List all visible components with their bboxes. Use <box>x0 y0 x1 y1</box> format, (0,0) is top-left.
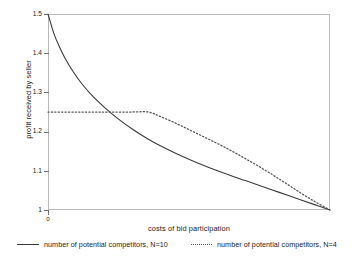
chart-legend: number of potential competitors, N=10 nu… <box>0 238 360 252</box>
x-axis-tick-label: 0 <box>38 216 58 222</box>
legend-swatch-dotted-icon <box>190 240 212 248</box>
y-axis-tick-label: 1.4 <box>16 50 42 57</box>
y-axis-tick <box>44 132 49 133</box>
curves-layer <box>48 14 330 210</box>
y-axis-tick-label: 1.1 <box>16 168 42 175</box>
legend-label-n4: number of potential competitors, N=4 <box>217 240 337 249</box>
chart-figure: profit received by seller 1.51.41.31.21.… <box>0 0 360 261</box>
y-axis-tick-label: 1.3 <box>16 89 42 96</box>
y-axis-title: profit received by seller <box>24 20 33 180</box>
legend-entry-n4: number of potential competitors, N=4 <box>190 238 337 250</box>
y-axis-tick <box>44 14 49 15</box>
y-axis-tick-label: 1.5 <box>16 11 42 18</box>
y-axis-tick <box>44 171 49 172</box>
legend-swatch-solid-icon <box>17 240 39 248</box>
plot-area <box>48 14 330 210</box>
y-axis-tick-label: 1.2 <box>16 128 42 135</box>
legend-entry-n10: number of potential competitors, N=10 <box>17 238 168 250</box>
y-axis-tick <box>44 53 49 54</box>
x-axis-title: costs of bid participation <box>48 224 330 233</box>
legend-label-n10: number of potential competitors, N=10 <box>44 240 168 249</box>
y-axis-tick <box>44 92 49 93</box>
y-axis-tick-label: 1 <box>16 207 42 214</box>
